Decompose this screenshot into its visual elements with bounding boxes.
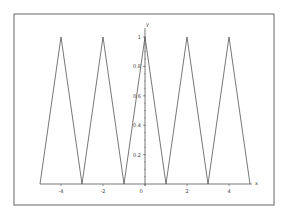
y-tick-label: 0.4 [133, 122, 141, 128]
chart: -4-20240.20.40.60.81 x y [0, 0, 287, 215]
y-tick-label: 1 [138, 34, 141, 40]
x-tick-label: -4 [59, 188, 64, 194]
y-axis-label: y [146, 21, 149, 28]
x-tick-label: -2 [101, 188, 106, 194]
x-tick-label: 4 [227, 188, 230, 194]
x-tick-label: 0 [139, 188, 142, 194]
y-tick-label: 0.8 [133, 63, 141, 69]
y-tick-label: 0.2 [133, 152, 141, 158]
x-tick-label: 2 [185, 188, 188, 194]
x-axis-label: x [255, 180, 258, 186]
